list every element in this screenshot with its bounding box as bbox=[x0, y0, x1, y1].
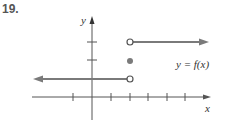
right-arrow-icon bbox=[199, 39, 209, 46]
y-axis-arrow-icon bbox=[90, 16, 95, 24]
filled-point bbox=[127, 58, 133, 64]
open-circle-upper bbox=[127, 39, 133, 45]
open-circle-lower bbox=[127, 76, 133, 82]
step-function-graph: y x y = f(x) bbox=[0, 0, 229, 133]
x-axis-arrow-icon bbox=[203, 95, 211, 100]
x-axis-label: x bbox=[204, 102, 210, 114]
function-label: y = f(x) bbox=[175, 58, 209, 71]
y-axis-label: y bbox=[80, 14, 86, 26]
left-arrow-icon bbox=[33, 76, 43, 83]
